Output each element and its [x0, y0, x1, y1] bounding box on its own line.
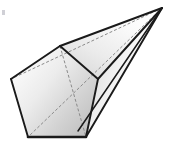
pentagonal-pyramid-figure [0, 0, 172, 149]
corner-speck-icon [2, 10, 5, 15]
figure-canvas: Pentagonal pyramid (oblique view) A long… [0, 0, 172, 149]
